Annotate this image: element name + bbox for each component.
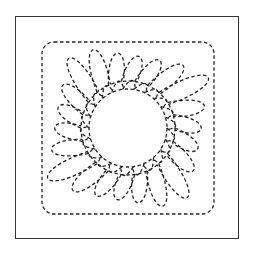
feather-wreath-diagram [0, 0, 256, 255]
feathers [42, 42, 214, 214]
